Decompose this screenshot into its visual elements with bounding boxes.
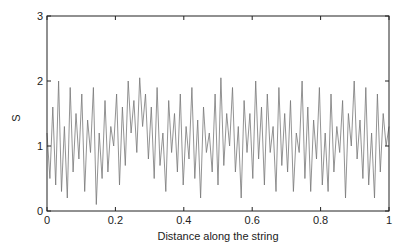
x-tick-label: 1 [386, 214, 392, 226]
y-tick-label: 1 [37, 140, 43, 152]
y-axis-label: S [10, 114, 22, 121]
x-tick-label: 0.4 [176, 214, 191, 226]
x-tick-label: 0 [44, 214, 50, 226]
y-tick-label: 0 [37, 205, 43, 217]
x-tick-label: 0.2 [108, 214, 123, 226]
x-tick-label: 0.6 [245, 214, 260, 226]
y-tick-label: 2 [37, 75, 43, 87]
x-axis-label: Distance along the string [157, 230, 278, 242]
chart: 00.20.40.60.81 0123 Distance along the s… [0, 0, 406, 250]
series-line [47, 78, 389, 205]
x-tick-label: 0.8 [313, 214, 328, 226]
plot-area [47, 78, 389, 205]
y-tick-label: 3 [37, 10, 43, 22]
y-axis-ticks: 0123 [37, 10, 389, 217]
